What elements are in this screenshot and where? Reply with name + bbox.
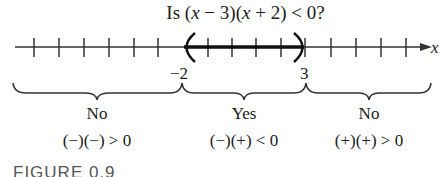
- brace-right-region: [306, 83, 431, 100]
- axis-label: x: [431, 38, 439, 58]
- region-left-answer: No: [47, 104, 147, 124]
- region-left-signs: (−)(−) > 0: [37, 131, 157, 151]
- brace-left-region: [13, 83, 182, 100]
- region-right-answer: No: [319, 104, 419, 124]
- region-right-signs: (+)(+) > 0: [309, 131, 429, 151]
- figure-caption: FIGURE 0.9: [13, 163, 116, 177]
- boundary-label-right: 3: [300, 64, 309, 84]
- boundary-label-left: −2: [170, 64, 188, 84]
- region-middle-answer: Yes: [194, 104, 294, 124]
- region-middle-signs: (−)(+) < 0: [184, 131, 304, 151]
- brace-middle-region: [182, 83, 306, 100]
